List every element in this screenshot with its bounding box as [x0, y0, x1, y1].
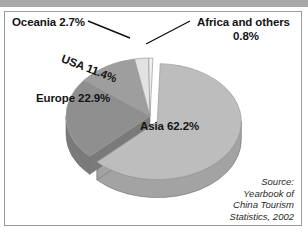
annotation-leader-lines: [88, 21, 190, 44]
source-line-1: Source:: [230, 176, 294, 188]
slice-label-europe: Europe 22.9%: [36, 92, 110, 104]
slice-label-africa-value: 0.8%: [233, 30, 259, 42]
slice-label-asia: Asia 62.2%: [140, 120, 199, 132]
figure-container: Oceania 2.7% Africa and others 0.8% USA …: [0, 0, 308, 240]
slice-label-oceania: Oceania 2.7%: [12, 16, 85, 28]
source-line-2: Yearbook of: [230, 188, 294, 200]
source-line-4: Statistics, 2002: [230, 211, 294, 223]
source-note: Source: Yearbook of China Tourism Statis…: [230, 176, 294, 222]
leader-line-africa: [146, 21, 190, 44]
leader-line-oceania: [88, 21, 130, 38]
slice-label-africa: Africa and others: [197, 16, 290, 28]
source-line-3: China Tourism: [230, 199, 294, 211]
